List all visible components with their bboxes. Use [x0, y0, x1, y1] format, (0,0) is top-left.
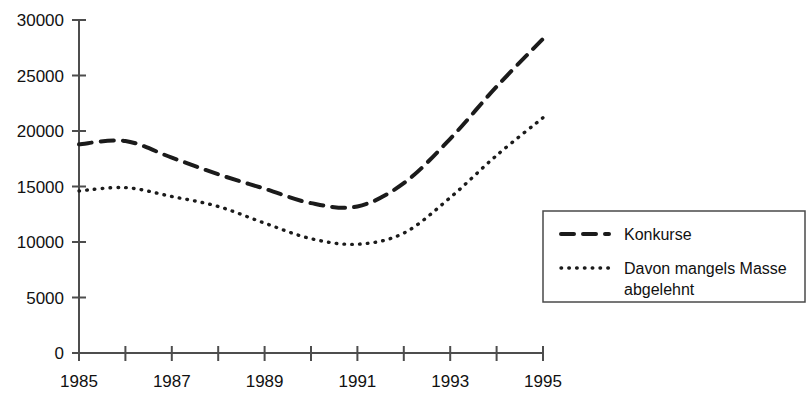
- legend-label-1: Davon mangels Masse: [624, 260, 787, 277]
- series-line-0: [79, 39, 543, 208]
- x-axis-tick-labels: 198519871989199119931995: [60, 372, 562, 391]
- x-axis: 198519871989199119931995: [60, 346, 562, 391]
- y-tick-label: 10000: [17, 233, 64, 252]
- series-line-1: [79, 118, 543, 245]
- x-tick-label: 1993: [431, 372, 469, 391]
- y-axis-tick-labels: 050001000015000200002500030000: [17, 11, 64, 363]
- y-tick-label: 25000: [17, 67, 64, 86]
- y-tick-label: 30000: [17, 11, 64, 30]
- legend-label-0: Konkurse: [624, 226, 692, 243]
- line-chart: 050001000015000200002500030000 198519871…: [0, 0, 810, 409]
- y-tick-label: 15000: [17, 178, 64, 197]
- x-tick-label: 1987: [153, 372, 191, 391]
- x-tick-label: 1991: [338, 372, 376, 391]
- chart-container: 050001000015000200002500030000 198519871…: [0, 0, 810, 409]
- y-tick-label: 5000: [26, 289, 64, 308]
- y-tick-label: 0: [55, 344, 64, 363]
- x-tick-label: 1995: [524, 372, 562, 391]
- x-tick-label: 1985: [60, 372, 98, 391]
- x-tick-label: 1989: [246, 372, 284, 391]
- chart-legend: KonkurseDavon mangels Masseabgelehnt: [543, 211, 805, 302]
- data-series-group: [79, 39, 543, 245]
- y-tick-label: 20000: [17, 122, 64, 141]
- legend-label-1-line2: abgelehnt: [624, 281, 695, 298]
- y-axis: 050001000015000200002500030000: [17, 11, 86, 363]
